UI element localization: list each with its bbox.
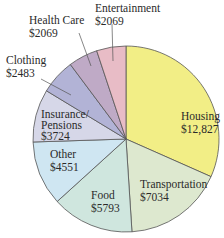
slice-label: Health Care$2069 (29, 14, 84, 39)
slice-label: Other$4551 (50, 148, 79, 173)
slice-label: Clothing$2483 (6, 54, 47, 79)
pie-chart: Housing$12,827Transportation$7034Food$57… (0, 0, 224, 238)
slice-label: Housing$12,827 (181, 110, 220, 136)
slice-label: Entertainment$2069 (95, 2, 161, 27)
